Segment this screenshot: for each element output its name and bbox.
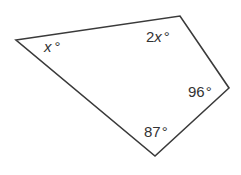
angle-label-bottom: 87° [144,123,168,140]
angle-label-left: x° [43,38,61,55]
angle-label-top-right: 2x° [146,28,170,45]
angle-label-right: 96° [188,83,212,100]
quadrilateral-diagram: x° 2x° 96° 87° [0,0,241,175]
